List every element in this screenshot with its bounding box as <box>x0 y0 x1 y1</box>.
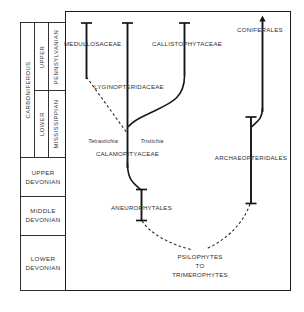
lineage-callistophytaceae <box>128 23 190 127</box>
period-label-carboniferous: CARBONIFEROUS <box>25 61 31 118</box>
epoch-label-lower: LOWER <box>39 112 45 136</box>
epoch-label-upper-devonian-line1: UPPER <box>31 169 54 176</box>
epoch-label-middle-devonian-line2: DEVONIAN <box>25 216 60 223</box>
lineage-calamopityaceae <box>128 140 142 190</box>
lineage-medullosaceae <box>81 23 92 79</box>
label-medullosaceae: MEDULLOSACEAE <box>64 40 121 47</box>
phylogeny-figure: CARBONIFEROUS UPPER LOWER PENNSYLVANIAN … <box>0 0 304 312</box>
dashed-link-archaeopteridales-to-psilophytes <box>206 204 250 249</box>
label-aneurophytales: ANEUROPHYTALES <box>111 204 172 211</box>
label-coniferales: CONIFERALES <box>237 26 283 33</box>
epoch-label-lower-devonian-line1: LOWER <box>31 255 56 262</box>
label-tristichia: Tristichia <box>140 138 163 144</box>
label-archaeopteridales: ARCHAEOPTERIDALES <box>215 154 287 161</box>
epoch-label-upper-devonian-line2: DEVONIAN <box>25 178 60 185</box>
epoch-label-middle-devonian-line1: MIDDLE <box>30 207 55 214</box>
label-callistophytaceae: CALLISTOPHYTACEAE <box>152 40 222 47</box>
label-calamopityaceae: CALAMOPITYACEAE <box>96 150 159 157</box>
epoch-label-upper: UPPER <box>39 46 45 68</box>
epoch-label-lower-devonian-line2: DEVONIAN <box>25 264 60 271</box>
label-psilophytes-line2: TO <box>196 262 205 269</box>
calamopityaceae-branch-curve <box>128 163 142 190</box>
subperiod-label-pennsylvanian: PENNSYLVANIAN <box>53 30 59 84</box>
label-lyginopteridaceae: LYGINOPTERIDACEAE <box>94 83 164 90</box>
taxon-labels: MEDULLOSACEAE CALLISTOPHYTACEAE CONIFERA… <box>64 26 287 278</box>
subperiod-label-mississippian: MISSISSIPPIAN <box>53 99 59 148</box>
label-tetrastichia: Tetrastichia <box>88 138 118 144</box>
label-psilophytes-line3: TRIMEROPHYTES <box>172 271 228 278</box>
lineage-lyginopteridaceae <box>122 23 133 140</box>
dashed-link-aneurophytales-to-psilophytes <box>142 221 193 250</box>
label-psilophytes-line1: PSILOPHYTES <box>177 253 222 260</box>
time-scale-labels: CARBONIFEROUS UPPER LOWER PENNSYLVANIAN … <box>25 30 60 271</box>
